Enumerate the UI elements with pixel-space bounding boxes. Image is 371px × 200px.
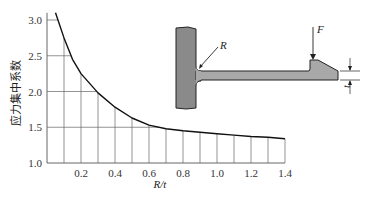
chart-figure: 1.01.52.02.53.0 0.20.40.60.81.01.21.4 R/… — [0, 0, 371, 200]
y-tick-label: 3.0 — [28, 14, 42, 26]
beam — [196, 60, 338, 80]
wall — [176, 27, 201, 109]
y-axis-ticks: 1.01.52.02.53.0 — [28, 14, 42, 169]
x-tick-label: 1.2 — [244, 167, 258, 179]
x-tick-label: 0.2 — [74, 167, 88, 179]
x-tick-label: 0.8 — [176, 167, 190, 179]
y-tick-label: 1.0 — [28, 157, 42, 169]
plot-area — [47, 13, 285, 163]
force-arrow-head — [310, 54, 316, 60]
x-axis-ticks: 0.20.40.60.81.01.21.4 — [74, 167, 292, 179]
beam-diagram: R F t — [176, 23, 360, 109]
x-tick-label: 1.4 — [278, 167, 292, 179]
y-tick-label: 1.5 — [28, 121, 42, 133]
y-tick-label: 2.5 — [28, 50, 42, 62]
force-label: F — [316, 23, 324, 35]
radius-label: R — [219, 39, 227, 51]
x-tick-label: 0.4 — [108, 167, 122, 179]
y-axis-label: 应力集中系数 — [9, 60, 23, 126]
y-tick-label: 2.0 — [28, 86, 42, 98]
x-tick-label: 1.0 — [210, 167, 224, 179]
radius-leader — [200, 47, 218, 67]
x-axis-label: R/t — [153, 178, 168, 190]
